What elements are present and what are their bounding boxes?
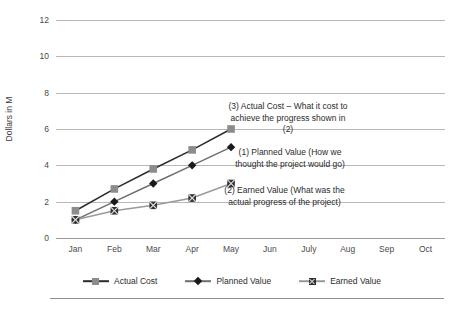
y-tick-label: 6 (44, 124, 49, 134)
annotation-earned-value: (2) Earned Value (What was the actual pr… (218, 185, 351, 208)
legend-label: Earned Value (330, 276, 381, 286)
x-tick-label: Jun (263, 244, 277, 254)
legend-key-icon (185, 276, 211, 287)
chart-legend: Actual CostPlanned ValueEarned Value (0, 272, 464, 290)
legend-item-actual-cost[interactable]: Actual Cost (83, 276, 157, 287)
axis-baseline (56, 238, 445, 239)
annotation-planned-value: (1) Planned Value (How we thought the pr… (230, 147, 350, 170)
x-tick-label: Mar (146, 244, 161, 254)
chart-canvas: Dollars in M 024681012 JanFebMarAprMayJu… (0, 0, 464, 310)
x-tick-label: Sep (379, 244, 394, 254)
x-tick-label: Aug (340, 244, 355, 254)
y-tick-label: 4 (44, 160, 49, 170)
y-tick-label: 2 (44, 197, 49, 207)
legend-item-planned-value[interactable]: Planned Value (185, 276, 271, 287)
annotation-actual-cost: (3) Actual Cost – What it cost to achiev… (226, 101, 350, 136)
x-tick-label: May (223, 244, 239, 254)
legend-key-icon (83, 276, 109, 287)
legend-label: Planned Value (216, 276, 271, 286)
legend-key-icon (299, 276, 325, 287)
y-axis-title: Dollars in M (4, 97, 14, 142)
legend-label: Actual Cost (114, 276, 157, 286)
y-tick-label: 12 (40, 15, 49, 25)
series-planned-value (71, 143, 235, 224)
bottom-divider (50, 298, 444, 299)
x-tick-label: Feb (107, 244, 122, 254)
x-tick-label: Apr (186, 244, 199, 254)
y-tick-label: 0 (44, 233, 49, 243)
x-tick-label: July (301, 244, 316, 254)
series-actual-cost (72, 125, 235, 214)
legend-item-earned-value[interactable]: Earned Value (299, 276, 381, 287)
y-tick-label: 8 (44, 88, 49, 98)
x-tick-label: Jan (69, 244, 83, 254)
x-tick-label: Oct (419, 244, 432, 254)
y-tick-label: 10 (40, 51, 49, 61)
